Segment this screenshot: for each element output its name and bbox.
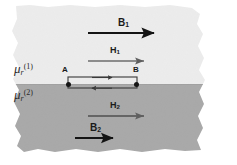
mu-r-1-superscript: (1) <box>24 62 33 71</box>
h2-label-sub: 2 <box>117 103 120 110</box>
loop-endpoint-a-dot <box>66 82 71 87</box>
b2-label: B2 <box>90 123 101 134</box>
mu-r-2-label: μr(2) <box>14 88 33 103</box>
h1-label-sub: 1 <box>117 48 120 55</box>
b1-label: B1 <box>118 18 129 29</box>
loop-endpoint-a-label: A <box>62 66 68 74</box>
mu-r-1-label: μr(1) <box>14 62 33 77</box>
h2-label: H2 <box>110 101 120 110</box>
loop-endpoint-b-label: B <box>133 66 139 74</box>
loop-endpoint-b-dot <box>134 82 139 87</box>
b1-label-sub: 1 <box>125 21 129 28</box>
figure-canvas: B1 H1 H2 B2 μr(1) μr(2) A B <box>0 0 237 165</box>
b2-label-sub: 2 <box>97 126 101 133</box>
mu-r-2-superscript: (2) <box>24 88 33 97</box>
h1-label: H1 <box>110 46 120 55</box>
